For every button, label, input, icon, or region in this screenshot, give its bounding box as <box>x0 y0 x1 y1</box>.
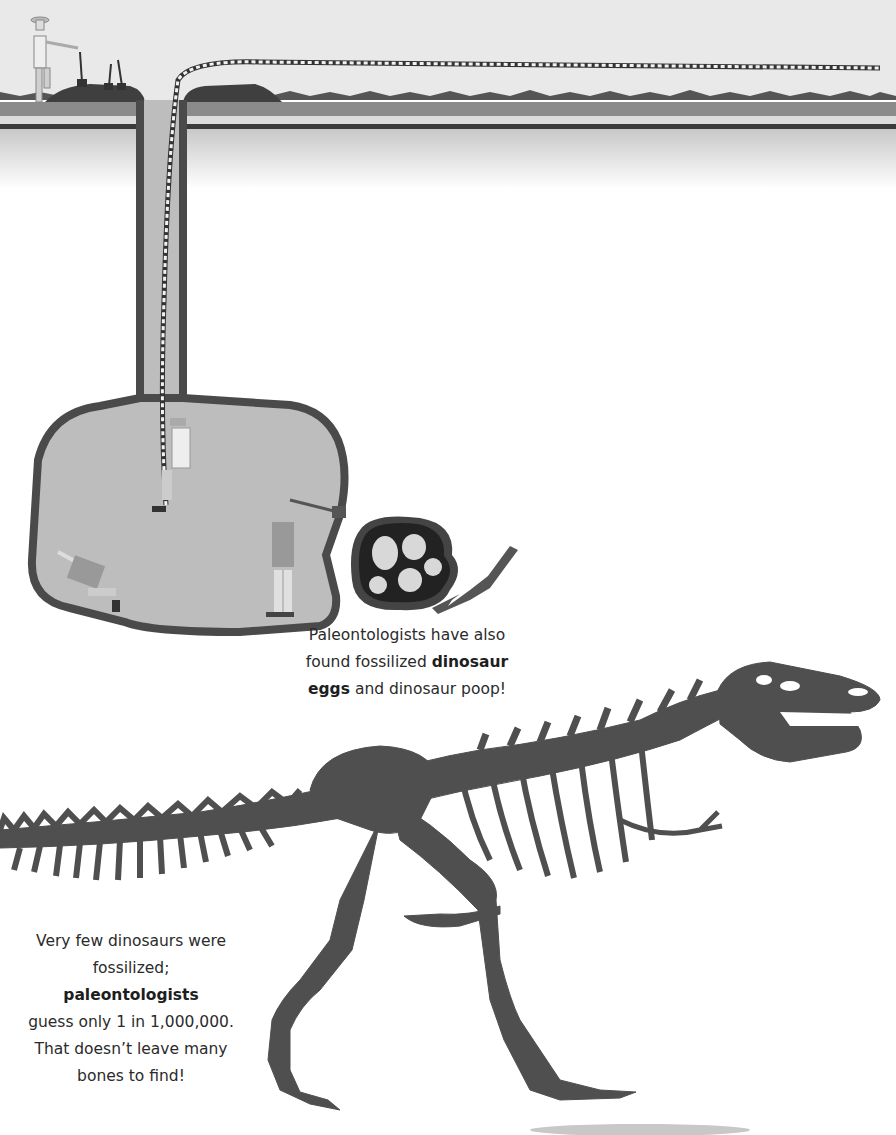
shovel-icon <box>78 52 125 89</box>
ground-shadow <box>530 1124 750 1135</box>
caption-bold-term: paleontologists <box>63 986 198 1004</box>
caption-line: found fossilized dinosaur <box>298 649 516 676</box>
caption-bold-term: dinosaur <box>432 653 508 671</box>
caption-text: fossilized; <box>93 959 170 977</box>
caption-line: Very few dinosaurs were <box>28 928 234 955</box>
caption-bold-term: eggs <box>308 680 350 698</box>
caption-text: found fossilized <box>306 653 432 671</box>
caption-text: and dinosaur poop! <box>350 680 506 698</box>
caption-line: Paleontologists have also <box>298 622 516 649</box>
caption-line: eggs and dinosaur poop! <box>298 676 516 703</box>
caption-dinosaur-eggs: Paleontologists have also found fossiliz… <box>298 622 516 703</box>
dinosaur-eggs-icon <box>351 517 458 611</box>
dirt-mound-left <box>45 84 145 102</box>
caption-line: fossilized; paleontologists <box>28 955 234 1009</box>
caption-line: bones to find! <box>28 1063 234 1090</box>
dirt-mound-right <box>183 84 282 102</box>
caption-line: That doesn’t leave many <box>28 1036 234 1063</box>
caption-fossilization: Very few dinosaurs were fossilized; pale… <box>28 928 234 1090</box>
caption-line: guess only 1 in 1,000,000. <box>28 1009 234 1036</box>
